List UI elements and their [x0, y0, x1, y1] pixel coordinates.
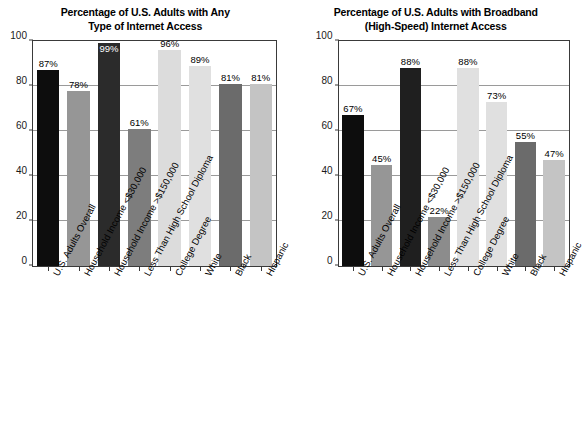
x-axis-tick-mark	[48, 266, 49, 271]
x-axis-label-slot: Household Income >$150,000	[94, 273, 124, 423]
bar[interactable]: 47%	[543, 160, 564, 266]
x-axis-tick-mark	[525, 266, 526, 271]
bar-value-label: 88%	[401, 57, 420, 67]
plot-area-right: 02040608010067%45%88%22%88%73%55%47%U.S.…	[338, 40, 570, 267]
bar-group: 87%78%99%61%96%89%81%81%	[33, 41, 276, 266]
y-axis-tick-label: 40	[16, 166, 27, 176]
x-axis-label-slot: Less Than High School Diploma	[124, 273, 154, 423]
bar-value-label: 87%	[39, 59, 58, 69]
x-axis-label-slot: U.S. Adults Overall	[339, 273, 368, 423]
bar-value-label: 81%	[251, 73, 270, 83]
bar-value-label: 78%	[69, 80, 88, 90]
y-axis-tick-label: 100	[10, 31, 27, 41]
bar-value-label: 89%	[191, 55, 210, 65]
y-axis-tick-label: 40	[321, 166, 332, 176]
x-axis-tick-mark	[109, 266, 110, 271]
bar[interactable]: 67%	[342, 115, 363, 266]
x-axis-tick-mark	[497, 266, 498, 271]
x-axis-tick-mark	[79, 266, 80, 271]
y-axis-tick-label: 80	[16, 76, 27, 86]
bar-value-label: 55%	[516, 131, 535, 141]
x-axis-label-slot: Hispanic	[540, 273, 569, 423]
x-axis-label-slot: Black	[511, 273, 540, 423]
x-axis-tick-mark	[353, 266, 354, 271]
plot-inner-right: 02040608010067%45%88%22%88%73%55%47%U.S.…	[339, 41, 569, 266]
y-axis-tick-label: 100	[316, 31, 333, 41]
x-axis-tick-mark	[261, 266, 262, 271]
x-axis-tick-mark	[230, 266, 231, 271]
x-axis-tick-mark	[554, 266, 555, 271]
chart-title-right: Percentage of U.S. Adults with Broadband…	[299, 6, 574, 33]
x-axis-label-slot: Black	[215, 273, 245, 423]
x-axis-tick-mark	[410, 266, 411, 271]
bar-value-label: 99%	[99, 44, 118, 54]
x-axis-label-slot: U.S. Adults Overall	[33, 273, 63, 423]
x-axis-label-slot: College Degree	[155, 273, 185, 423]
bar-group: 67%45%88%22%88%73%55%47%	[339, 41, 569, 266]
x-axis-label-slot: White	[482, 273, 511, 423]
bar-value-label: 47%	[545, 149, 564, 159]
x-axis-label-slot: White	[185, 273, 215, 423]
chart-panel-internet-access: Percentage of U.S. Adults with Any Type …	[0, 0, 291, 428]
x-axis-labels: U.S. Adults OverallHousehold Income <$30…	[339, 273, 569, 423]
y-axis-tick-label: 0	[21, 256, 27, 266]
bar[interactable]: 87%	[37, 70, 59, 266]
y-axis-tick-label: 60	[16, 121, 27, 131]
bar-value-label: 61%	[130, 118, 149, 128]
x-axis-tick-mark	[382, 266, 383, 271]
bar-slot: 67%	[339, 41, 368, 266]
x-axis-tick-mark	[200, 266, 201, 271]
y-axis-tick-label: 20	[16, 211, 27, 221]
bar-slot: 81%	[246, 41, 276, 266]
bar-slot: 55%	[511, 41, 540, 266]
x-axis-labels: U.S. Adults OverallHousehold Income <$30…	[33, 273, 276, 423]
bar[interactable]: 81%	[250, 84, 272, 266]
chart-title-left: Percentage of U.S. Adults with Any Type …	[8, 6, 283, 33]
x-axis-label-slot: Less Than High School Diploma	[425, 273, 454, 423]
bar-slot: 47%	[540, 41, 569, 266]
x-axis-tick-mark	[139, 266, 140, 271]
x-axis-label-slot: College Degree	[454, 273, 483, 423]
bar[interactable]: 55%	[515, 142, 536, 266]
x-axis-label-slot: Household Income <$30,000	[63, 273, 93, 423]
x-axis-tick-mark	[170, 266, 171, 271]
x-axis-label-slot: Household Income >$150,000	[396, 273, 425, 423]
x-axis-tick-mark	[439, 266, 440, 271]
bar[interactable]: 81%	[219, 84, 241, 266]
bar-value-label: 96%	[160, 39, 179, 49]
x-axis-tick-mark	[468, 266, 469, 271]
bar-value-label: 81%	[221, 73, 240, 83]
y-axis-tick-label: 20	[321, 211, 332, 221]
x-axis-label-slot: Household Income <$30,000	[367, 273, 396, 423]
y-axis-tick-label: 0	[327, 256, 333, 266]
plot-area-left: 02040608010087%78%99%61%96%89%81%81%U.S.…	[32, 40, 277, 267]
bar-value-label: 67%	[343, 104, 362, 114]
y-axis-tick-label: 60	[321, 121, 332, 131]
plot-inner-left: 02040608010087%78%99%61%96%89%81%81%U.S.…	[33, 41, 276, 266]
bar-value-label: 88%	[458, 57, 477, 67]
bar-value-label: 73%	[487, 91, 506, 101]
chart-panel-broadband-access: Percentage of U.S. Adults with Broadband…	[291, 0, 582, 428]
bar-slot: 81%	[215, 41, 245, 266]
x-axis-label-slot: Hispanic	[246, 273, 276, 423]
y-axis-tick-label: 80	[321, 76, 332, 86]
bar-value-label: 45%	[372, 154, 391, 164]
bar-slot: 87%	[33, 41, 63, 266]
